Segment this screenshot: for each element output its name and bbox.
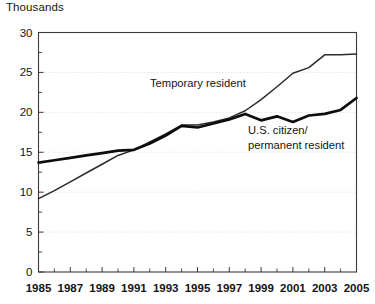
chart-container: Thousands 051015202530 19851987198919911… bbox=[0, 0, 375, 304]
y-tick-label-25: 25 bbox=[20, 66, 33, 78]
x-tick-label-1987: 1987 bbox=[58, 282, 84, 294]
annotation-1-line-0: U.S. citizen/ bbox=[248, 124, 309, 136]
x-tick-label-1999: 1999 bbox=[248, 282, 274, 294]
x-tick-label-2001: 2001 bbox=[280, 282, 306, 294]
annotation-1-line-1: permanent resident bbox=[248, 139, 345, 151]
y-tick-label-0: 0 bbox=[26, 266, 32, 278]
x-tick-label-1989: 1989 bbox=[89, 282, 115, 294]
y-axis-tick-labels: 051015202530 bbox=[20, 27, 33, 279]
x-tick-label-1991: 1991 bbox=[121, 282, 147, 294]
axis-ticks-group bbox=[39, 33, 357, 273]
x-tick-label-2005: 2005 bbox=[344, 282, 370, 294]
y-tick-label-15: 15 bbox=[20, 146, 33, 158]
x-tick-label-1997: 1997 bbox=[217, 282, 243, 294]
x-tick-label-1993: 1993 bbox=[153, 282, 179, 294]
x-tick-label-2003: 2003 bbox=[312, 282, 338, 294]
y-tick-label-5: 5 bbox=[26, 226, 32, 238]
annotation-0-line-0: Temporary resident bbox=[150, 77, 247, 89]
line-chart-plot: 051015202530 198519871989199119931995199… bbox=[0, 0, 375, 304]
y-tick-label-10: 10 bbox=[20, 186, 33, 198]
gridlines-group bbox=[40, 72, 356, 232]
x-tick-label-1985: 1985 bbox=[26, 282, 52, 294]
y-tick-label-20: 20 bbox=[20, 106, 33, 118]
x-axis-tick-labels: 1985198719891991199319951997199920012003… bbox=[26, 282, 370, 294]
y-tick-label-30: 30 bbox=[20, 27, 33, 39]
plot-frame bbox=[39, 33, 357, 273]
series-line-1 bbox=[39, 98, 357, 163]
data-series-group bbox=[39, 54, 357, 199]
x-tick-label-1995: 1995 bbox=[185, 282, 211, 294]
